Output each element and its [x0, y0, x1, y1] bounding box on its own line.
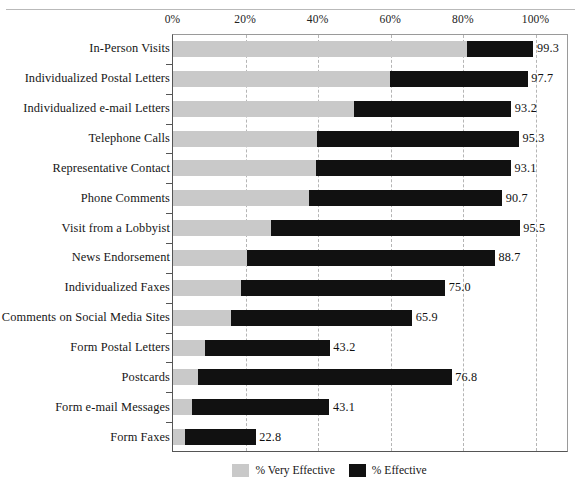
category-label: Visit from a Lobbyist — [62, 213, 170, 243]
category-label: Form e-mail Messages — [55, 392, 170, 422]
chart-legend: % Very Effective% Effective — [0, 460, 581, 480]
y-axis-tickmark — [166, 243, 173, 244]
chart-row: In-Person Visits99.3 — [0, 34, 581, 64]
chart-row: Representative Contact93.1 — [0, 153, 581, 183]
bar-segment-effective[interactable] — [192, 399, 330, 415]
bar-segment-very-effective[interactable] — [173, 340, 205, 356]
y-axis-tickmark — [166, 362, 173, 363]
stacked-bar[interactable] — [173, 250, 495, 266]
bar-segment-very-effective[interactable] — [173, 280, 241, 296]
legend-label: % Very Effective — [255, 464, 334, 477]
legend-item[interactable]: % Very Effective — [232, 464, 334, 477]
stacked-bar[interactable] — [173, 399, 329, 415]
bar-segment-effective[interactable] — [309, 190, 502, 206]
bar-segment-very-effective[interactable] — [173, 190, 309, 206]
bar-segment-very-effective[interactable] — [173, 160, 316, 176]
bar-segment-very-effective[interactable] — [173, 310, 231, 326]
bar-segment-very-effective[interactable] — [173, 220, 271, 236]
legend-label: % Effective — [372, 464, 427, 477]
bar-segment-very-effective[interactable] — [173, 101, 354, 117]
bar-segment-effective[interactable] — [316, 160, 511, 176]
y-axis-tickmark — [166, 124, 173, 125]
bar-value-label: 65.9 — [416, 303, 438, 333]
bar-segment-effective[interactable] — [390, 71, 527, 87]
chart-row: Form e-mail Messages43.1 — [0, 392, 581, 422]
stacked-bar[interactable] — [173, 190, 502, 206]
y-axis-tickmark — [166, 333, 173, 334]
x-tick-label-100pct: 100% — [522, 13, 550, 25]
bar-segment-very-effective[interactable] — [173, 369, 198, 385]
chart-row: Form Faxes22.8 — [0, 422, 581, 452]
category-label: Postcards — [122, 362, 170, 392]
bar-segment-effective[interactable] — [271, 220, 520, 236]
bar-value-label: 99.3 — [537, 34, 559, 64]
chart-row: Phone Comments90.7 — [0, 183, 581, 213]
y-axis-tickmark — [166, 303, 173, 304]
bar-value-label: 75.0 — [449, 273, 471, 303]
x-tick-label-40pct: 40% — [307, 13, 329, 25]
x-axis-tick-labels: 0%20%40%60%80%100% — [0, 13, 581, 29]
x-tick-label-0pct: 0% — [165, 13, 181, 25]
stacked-bar[interactable] — [173, 340, 330, 356]
y-axis-tickmark — [166, 213, 173, 214]
stacked-bar[interactable] — [173, 369, 452, 385]
bar-segment-effective[interactable] — [205, 340, 330, 356]
bar-segment-very-effective[interactable] — [173, 429, 185, 445]
category-label: Comments on Social Media Sites — [2, 303, 170, 333]
category-label: In-Person Visits — [89, 34, 170, 64]
stacked-bar[interactable] — [173, 220, 520, 236]
bar-segment-effective[interactable] — [231, 310, 412, 326]
bar-segment-very-effective[interactable] — [173, 71, 390, 87]
chart-row: Form Postal Letters43.2 — [0, 333, 581, 363]
category-label: Form Faxes — [110, 422, 170, 452]
stacked-bar[interactable] — [173, 131, 519, 147]
bar-value-label: 95.3 — [522, 124, 544, 154]
category-label: Individualized e-mail Letters — [23, 94, 170, 124]
bar-segment-effective[interactable] — [317, 131, 518, 147]
bar-value-label: 93.1 — [514, 153, 536, 183]
bar-segment-effective[interactable] — [198, 369, 452, 385]
stacked-bar[interactable] — [173, 429, 256, 445]
bar-segment-effective[interactable] — [185, 429, 255, 445]
stacked-bar[interactable] — [173, 101, 511, 117]
legend-swatch-very — [232, 464, 249, 477]
chart-row: Comments on Social Media Sites65.9 — [0, 303, 581, 333]
y-axis-tickmark — [166, 94, 173, 95]
bar-value-label: 88.7 — [498, 243, 520, 273]
stacked-bar[interactable] — [173, 41, 533, 57]
chart-row: Telephone Calls95.3 — [0, 124, 581, 154]
category-label: Representative Contact — [53, 153, 170, 183]
y-axis-tickmark — [166, 422, 173, 423]
stacked-bar[interactable] — [173, 310, 412, 326]
category-label: Individualized Postal Letters — [25, 64, 170, 94]
category-label: Phone Comments — [81, 183, 170, 213]
stacked-bar[interactable] — [173, 160, 511, 176]
bar-segment-very-effective[interactable] — [173, 131, 317, 147]
y-axis-tickmark — [166, 183, 173, 184]
bar-segment-effective[interactable] — [467, 41, 533, 57]
legend-item[interactable]: % Effective — [349, 464, 427, 477]
stacked-bar[interactable] — [173, 71, 528, 87]
bar-value-label: 90.7 — [506, 183, 528, 213]
y-axis-tickmark — [166, 392, 173, 393]
category-label: News Endorsement — [72, 243, 170, 273]
bar-segment-very-effective[interactable] — [173, 399, 192, 415]
chart-row: Visit from a Lobbyist95.5 — [0, 213, 581, 243]
stacked-bar[interactable] — [173, 280, 445, 296]
x-tick-label-80pct: 80% — [452, 13, 474, 25]
category-label: Telephone Calls — [89, 124, 171, 154]
bar-segment-effective[interactable] — [354, 101, 511, 117]
bar-value-label: 43.2 — [333, 333, 355, 363]
bar-segment-very-effective[interactable] — [173, 250, 247, 266]
y-axis-tickmark — [166, 153, 173, 154]
bar-segment-effective[interactable] — [247, 250, 495, 266]
bar-segment-effective[interactable] — [241, 280, 445, 296]
category-label: Individualized Faxes — [64, 273, 170, 303]
chart-row: Individualized Faxes75.0 — [0, 273, 581, 303]
y-axis-tickmark — [166, 273, 173, 274]
stacked-bar-chart: 0%20%40%60%80%100% In-Person Visits99.3I… — [0, 0, 581, 487]
bar-value-label: 95.5 — [523, 213, 545, 243]
chart-row: Individualized e-mail Letters93.2 — [0, 94, 581, 124]
figure-top-rule — [6, 9, 575, 10]
bar-segment-very-effective[interactable] — [173, 41, 467, 57]
